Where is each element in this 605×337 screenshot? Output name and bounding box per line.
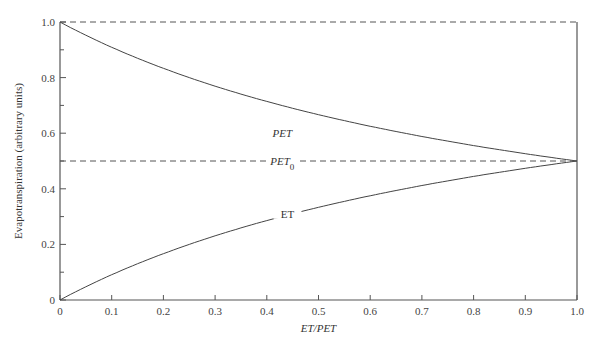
x-tick-label: 0.5: [312, 305, 326, 317]
y-tick-label: 0: [50, 294, 56, 306]
x-tick-label: 0.9: [518, 305, 532, 317]
y-tick-label: 0.2: [41, 238, 55, 250]
y-tick-label: 1.0: [41, 16, 55, 28]
x-tick-label: 0.2: [157, 305, 171, 317]
y-tick-label: 0.6: [41, 127, 55, 139]
x-axis-label: ET/PET: [300, 322, 337, 334]
series-pet: [60, 22, 577, 161]
x-tick-label: 0.8: [467, 305, 481, 317]
x-tick-label: 0.4: [260, 305, 274, 317]
x-tick-label: 1.0: [570, 305, 584, 317]
x-tick-label: 0.1: [105, 305, 119, 317]
chart: 00.10.20.30.40.50.60.70.80.91.000.20.40.…: [0, 0, 605, 337]
x-tick-label: 0.7: [415, 305, 429, 317]
x-tick-label: 0.3: [208, 305, 222, 317]
x-tick-label: 0: [57, 305, 63, 317]
y-tick-label: 0.4: [41, 183, 55, 195]
y-axis-label: Evapotranspiration (arbitrary units): [12, 83, 25, 239]
series-et: [60, 161, 577, 300]
annotation-pet: PET: [272, 127, 293, 139]
y-tick-label: 0.8: [41, 72, 55, 84]
annotation-et: ET: [281, 208, 295, 220]
x-tick-label: 0.6: [363, 305, 377, 317]
